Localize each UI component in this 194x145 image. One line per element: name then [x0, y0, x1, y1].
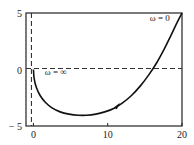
y-tick-label: − 5: [9, 121, 22, 132]
y-tick-label: 5: [17, 8, 22, 19]
x-tick-label: 20: [177, 129, 187, 140]
annotation-label: ω = 0: [150, 13, 170, 23]
y-tick-label: 0: [17, 65, 22, 76]
annotation-label: ω = ∞: [45, 67, 67, 77]
series-line: [33, 13, 182, 115]
nyquist-chart: 0102050− 5 ω = 0ω = ∞: [0, 0, 194, 145]
x-tick-label: 0: [31, 129, 36, 140]
x-tick-label: 10: [103, 129, 113, 140]
